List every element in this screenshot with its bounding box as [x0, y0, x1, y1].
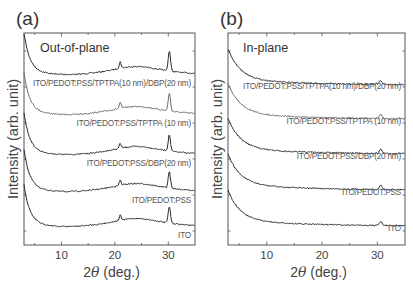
y-axis-title: Intensity (arb. unit) — [5, 79, 21, 199]
x-tick-label: 30 — [371, 249, 384, 261]
curve-label: ITO/PEDOT:PSS — [342, 188, 402, 197]
plot-frame — [24, 33, 195, 245]
x-axis-title: 2θ (deg.) — [83, 264, 140, 280]
x-tick-label: 10 — [55, 249, 68, 261]
curve-label: ITO/PEDOT:PSS/TPTPA (10 nm) — [287, 117, 402, 126]
curve-label: ITO/PEDOT:PSS — [132, 196, 192, 205]
measurement-mode-label: In-plane — [243, 41, 288, 55]
panel-label: (b) — [220, 8, 243, 29]
measurement-mode-label: Out-of-plane — [40, 41, 110, 55]
x-tick-label: 30 — [162, 249, 175, 261]
curve-label: ITO — [388, 224, 401, 233]
xrd-figure: (a)1020302θ (deg.)Intensity (arb. unit)O… — [0, 0, 413, 285]
panel-b: (b)1020302θ (deg.)Intensity (arb. unit)I… — [209, 8, 405, 280]
x-tick-label: 10 — [260, 249, 273, 261]
x-axis-title: 2θ (deg.) — [290, 264, 347, 280]
x-axis-ticks — [24, 33, 195, 245]
curve-label: ITO/PEDOT:PSS/TPTPA(10 nm)/DBP(20 nm) — [243, 82, 401, 91]
curve-label: ITO — [178, 231, 191, 240]
panel-a: (a)1020302θ (deg.)Intensity (arb. unit)O… — [5, 8, 195, 280]
xrd-curve — [24, 150, 195, 192]
plot-frame — [228, 33, 405, 245]
curve-label: ITO/PEDOT:PSS/TPTPA (10 nm) — [77, 119, 192, 128]
curve-label: ITO/PEDOT:PSS/DBP(20 nm) — [87, 159, 192, 168]
curve-label: ITO/PEDOT:PSS/TPTPA(10 nm)/DBP(20 nm) — [33, 79, 191, 88]
x-tick-label: 20 — [316, 249, 329, 261]
x-tick-label: 20 — [108, 249, 121, 261]
curve-label: ITO/PEDOT:PSS/DBP(20 nm) — [297, 152, 402, 161]
x-axis-ticks — [228, 33, 405, 245]
y-axis-title: Intensity (arb. unit) — [209, 79, 225, 199]
panel-label: (a) — [16, 8, 39, 29]
